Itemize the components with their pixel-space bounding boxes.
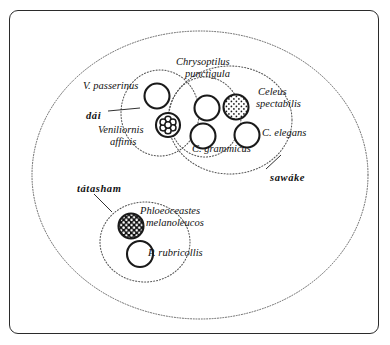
circle-v-passerinus-outline	[145, 84, 170, 109]
circle-veniliornis-affinis	[156, 113, 180, 137]
circle-phloeoceastes-melanoleucos-outline	[119, 214, 144, 239]
label-p-rubricollis: P. rubricollis	[148, 247, 203, 258]
label-veniliornis-2: affinis	[110, 136, 136, 147]
circle-veniliornis-affinis-rosette-pattern	[160, 116, 176, 133]
label-v-passerinus: V. passerinus	[83, 80, 138, 91]
label-phloeoceastes-2: melanoleucos	[146, 217, 204, 228]
label-sawake: sawáke	[270, 172, 305, 183]
circle-celeus-spectabilis	[224, 95, 249, 120]
label-tatasham: tátasham	[77, 183, 121, 194]
label-dai: dái	[86, 110, 101, 121]
leader-line-tatasham	[94, 194, 112, 212]
leader-line-dai	[108, 108, 140, 111]
label-chrysoptilus-2: punctigula	[185, 68, 230, 79]
circle-chrysoptilus-upper-outline	[195, 96, 220, 121]
label-c-grammicus: C. grammicus	[192, 143, 251, 154]
label-c-elegans: C. elegans	[262, 127, 306, 138]
circle-celeus-spectabilis-outline	[224, 95, 249, 120]
species-circle-group	[119, 84, 260, 268]
label-chrysoptilus-1: Chrysoptilus	[176, 56, 230, 67]
leader-line-sawake	[266, 155, 281, 169]
label-celeus-1: Celeus	[258, 86, 287, 97]
label-phloeoceastes-1: Phloeoceastes	[140, 205, 200, 216]
label-celeus-2: spectabilis	[256, 98, 301, 109]
circle-chrysoptilus-upper	[195, 96, 220, 121]
label-veniliornis-1: Veniliornis	[98, 124, 144, 135]
figure-root: V. passerinusdáiVeniliornisaffinisChryso…	[0, 0, 390, 345]
circle-v-passerinus	[145, 84, 170, 109]
diagram-canvas	[0, 0, 390, 345]
circle-phloeoceastes-melanoleucos	[119, 214, 144, 239]
